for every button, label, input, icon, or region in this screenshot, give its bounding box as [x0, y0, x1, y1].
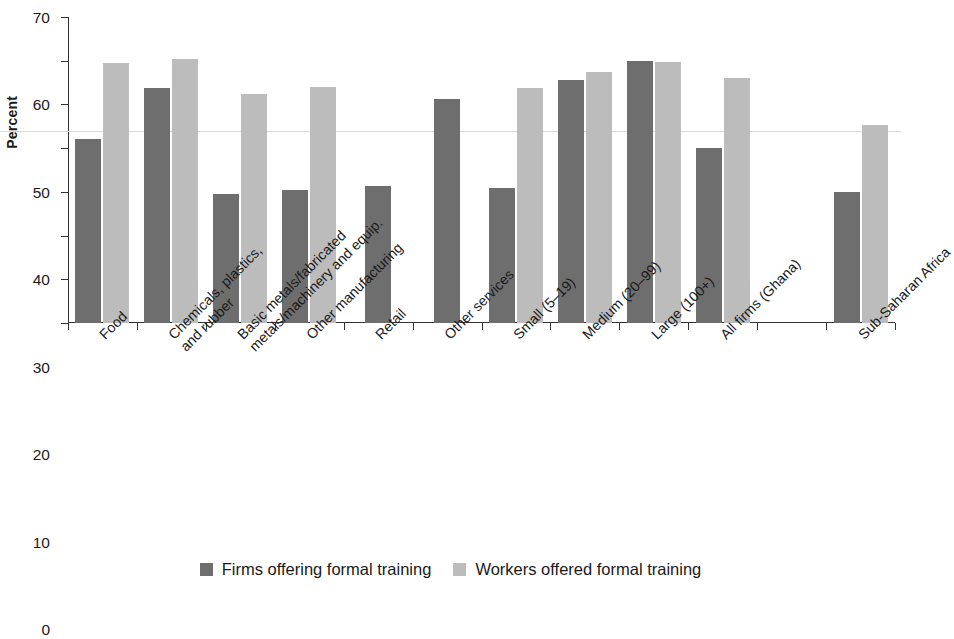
bar-firms-offering-formal-training	[75, 139, 101, 323]
chart-legend: Firms offering formal training Workers o…	[0, 560, 901, 579]
y-axis-tick-label: 10	[33, 534, 50, 552]
bar-workers-offered-formal-training	[655, 62, 681, 323]
bar-workers-offered-formal-training	[517, 88, 543, 323]
bar-firms-offering-formal-training	[696, 148, 722, 323]
y-axis-tick: 50	[61, 104, 68, 105]
x-axis-tick	[482, 323, 483, 330]
bar-firms-offering-formal-training	[627, 61, 653, 323]
bar-workers-offered-formal-training	[172, 59, 198, 323]
legend-label: Firms offering formal training	[222, 560, 432, 579]
x-axis-tick	[550, 323, 551, 330]
y-axis-tick-label: 60	[33, 96, 50, 114]
y-axis-tick-label: 30	[33, 359, 50, 377]
x-axis-tick	[619, 323, 620, 330]
x-axis-tick	[826, 323, 827, 330]
y-axis-tick: 20	[61, 236, 68, 237]
y-axis-tick: 30	[61, 192, 68, 193]
legend-item: Workers offered formal training	[453, 560, 701, 579]
bar-workers-offered-formal-training	[586, 72, 612, 323]
y-axis-tick: 70	[61, 17, 68, 18]
x-axis-tick	[757, 323, 758, 330]
x-axis-tick	[206, 323, 207, 330]
x-axis-tick	[895, 323, 896, 330]
legend-item: Firms offering formal training	[200, 560, 432, 579]
y-axis-tick: 0	[61, 323, 68, 324]
x-axis-tick	[137, 323, 138, 330]
y-axis-title: Percent	[4, 96, 20, 149]
bars-layer	[68, 17, 895, 323]
bar-workers-offered-formal-training	[862, 125, 888, 323]
x-axis-tick	[688, 323, 689, 330]
bar-firms-offering-formal-training	[365, 186, 391, 323]
x-axis-tick	[68, 323, 69, 330]
bar-firms-offering-formal-training	[213, 194, 239, 323]
y-axis-tick: 60	[61, 61, 68, 62]
y-axis-tick: 10	[61, 279, 68, 280]
legend-swatch-firms-icon	[200, 563, 213, 576]
x-axis-tick	[344, 323, 345, 330]
bar-firms-offering-formal-training	[434, 99, 460, 323]
bar-firms-offering-formal-training	[489, 188, 515, 324]
y-axis-tick-label: 70	[33, 9, 50, 27]
bar-workers-offered-formal-training	[310, 87, 336, 323]
y-axis-tick: 40	[61, 148, 68, 149]
plot-area: 010203040506070	[68, 17, 895, 323]
x-axis-tick	[413, 323, 414, 330]
bar-workers-offered-formal-training	[103, 63, 129, 323]
legend-label: Workers offered formal training	[475, 560, 701, 579]
bar-firms-offering-formal-training	[834, 192, 860, 323]
bar-workers-offered-formal-training	[241, 94, 267, 323]
y-axis-tick-label: 20	[33, 446, 50, 464]
x-axis-tick	[275, 323, 276, 330]
bar-workers-offered-formal-training	[724, 78, 750, 323]
bar-firms-offering-formal-training	[144, 88, 170, 323]
y-axis-tick-label: 0	[41, 621, 50, 639]
legend-swatch-workers-icon	[453, 563, 466, 576]
y-axis-tick-label: 50	[33, 184, 50, 202]
bar-firms-offering-formal-training	[282, 190, 308, 323]
y-axis-tick-label: 40	[33, 271, 50, 289]
bar-firms-offering-formal-training	[558, 80, 584, 323]
